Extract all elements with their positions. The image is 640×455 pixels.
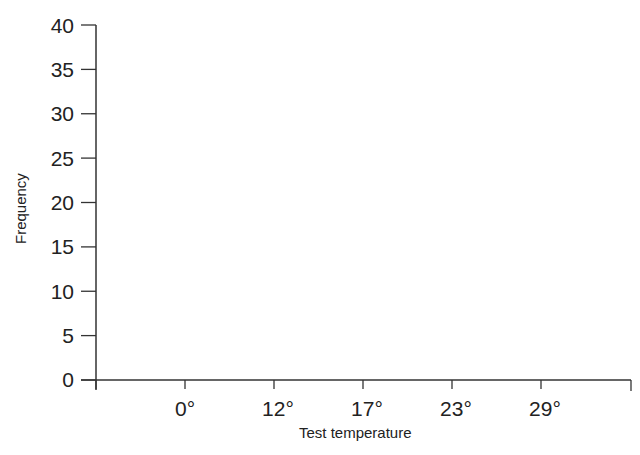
x-tick-label-17: 17°	[337, 398, 397, 419]
x-axis-title: Test temperature	[299, 424, 412, 441]
y-axis-title: Frequency	[12, 173, 29, 244]
y-tick-label-5: 5	[4, 325, 74, 346]
x-tick-label-29: 29°	[515, 398, 575, 419]
y-tick-label-40: 40	[4, 15, 74, 36]
y-tick-label-25: 25	[4, 148, 74, 169]
chart-axes	[0, 0, 640, 455]
x-tick-label-23: 23°	[426, 398, 486, 419]
frequency-chart: 40 35 30 25 20 15 10 5 0 0° 12° 17° 23° …	[0, 0, 640, 455]
x-tick-label-0: 0°	[155, 398, 215, 419]
x-tick-label-12: 12°	[248, 398, 308, 419]
y-tick-label-10: 10	[4, 281, 74, 302]
y-tick-label-35: 35	[4, 59, 74, 80]
y-tick-label-30: 30	[4, 103, 74, 124]
y-tick-label-0: 0	[4, 369, 74, 390]
x-ticks	[96, 380, 631, 391]
y-ticks	[81, 25, 96, 380]
